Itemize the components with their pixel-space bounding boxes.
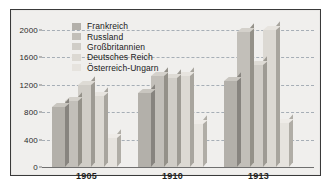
bar-side xyxy=(190,68,194,167)
bar-side xyxy=(276,22,280,167)
legend-label: Großbritannien xyxy=(87,42,145,52)
y-axis-tick-label: 400 xyxy=(24,135,38,144)
y-axis-tick-mark xyxy=(39,29,42,30)
legend-item--sterreich-ungarn: Österreich-Ungarn xyxy=(72,63,159,73)
y-axis-tick-mark xyxy=(39,84,42,85)
legend-swatch xyxy=(72,54,81,61)
legend-item-frankreich: Frankreich xyxy=(72,21,159,31)
legend-swatch xyxy=(72,33,81,40)
bar-side xyxy=(151,84,155,167)
bar-side xyxy=(91,76,95,167)
y-axis-tick-mark xyxy=(39,57,42,58)
x-axis-group-label-1905: 1905 xyxy=(76,171,97,181)
bar-1910-frankreich xyxy=(138,93,151,167)
chart-frame: 0400800120016002000 190519101913 Frankre… xyxy=(10,9,321,176)
legend-label: Russland xyxy=(87,32,123,42)
x-axis-group-label-1910: 1910 xyxy=(162,171,183,181)
bar-side xyxy=(263,57,267,167)
y-axis-tick-label: 2000 xyxy=(19,25,38,34)
bar-1913-frankreich xyxy=(224,81,237,167)
legend-label: Frankreich xyxy=(87,21,128,31)
legend-label: Österreich-Ungarn xyxy=(87,63,159,73)
bar-side xyxy=(65,98,69,167)
legend-item-russland: Russland xyxy=(72,31,159,41)
bar-face xyxy=(52,107,65,167)
y-axis-tick-label: 1600 xyxy=(19,53,38,62)
y-axis-tick-label: 1200 xyxy=(19,80,38,89)
bar-side xyxy=(78,92,82,167)
chart-legend: FrankreichRusslandGroßbritannienDeutsche… xyxy=(72,21,159,73)
legend-swatch xyxy=(72,23,81,30)
bar-1905-frankreich xyxy=(52,107,65,167)
legend-item-deutsches-reich: Deutsches Reich xyxy=(72,52,159,62)
legend-swatch xyxy=(72,43,81,50)
legend-item-gro-britannien: Großbritannien xyxy=(72,42,159,52)
y-axis-tick-mark xyxy=(39,112,42,113)
bar-side xyxy=(250,24,254,167)
bar-face xyxy=(138,93,151,167)
y-axis-tick-mark xyxy=(39,139,42,140)
x-axis-group-label-1913: 1913 xyxy=(248,171,269,181)
bar-side xyxy=(237,72,241,167)
legend-swatch xyxy=(72,64,81,71)
axis-baseline xyxy=(42,167,314,168)
bar-side xyxy=(104,87,108,167)
legend-label: Deutsches Reich xyxy=(87,52,153,62)
y-axis-tick-mark xyxy=(39,167,42,168)
bar-side xyxy=(177,70,181,167)
y-axis-tick-label: 0 xyxy=(33,163,38,172)
bar-face xyxy=(224,81,237,167)
y-axis-tick-label: 800 xyxy=(24,108,38,117)
bar-side xyxy=(164,68,168,167)
